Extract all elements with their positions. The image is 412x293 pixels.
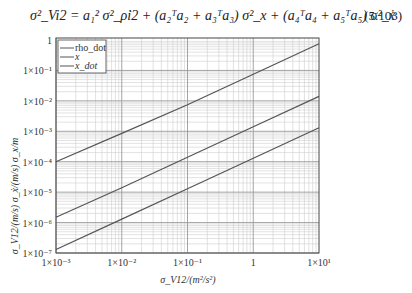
y-tick-label: 1×10⁻⁵ bbox=[23, 187, 52, 198]
y-tick-label: 1×10⁻¹ bbox=[23, 65, 52, 76]
y-tick-label: 1×10⁻⁴ bbox=[23, 157, 53, 168]
y-tick-label: 1×10⁻⁶ bbox=[23, 218, 53, 229]
x-axis-label: σ_V12/(m²/s²) bbox=[160, 274, 216, 286]
y-tick-label: 1 bbox=[47, 35, 52, 46]
y-tick-label: 1×10⁻² bbox=[23, 96, 52, 107]
y-tick-labels: 11×10⁻¹1×10⁻²1×10⁻³1×10⁻⁴1×10⁻⁵1×10⁻⁶1×1… bbox=[23, 35, 53, 259]
x-tick-label: 1×10¹ bbox=[307, 257, 331, 268]
legend-label-x-dot: x_dot bbox=[74, 60, 97, 71]
legend: rho_dot x x_dot bbox=[58, 40, 106, 73]
log-log-chart: 11×10⁻¹1×10⁻²1×10⁻³1×10⁻⁴1×10⁻⁵1×10⁻⁶1×1… bbox=[0, 0, 412, 293]
x-tick-label: 1 bbox=[251, 257, 256, 268]
x-tick-labels: 1×10⁻³1×10⁻²1×10⁻¹11×10¹ bbox=[42, 257, 331, 268]
x-tick-label: 1×10⁻¹ bbox=[173, 257, 202, 268]
x-tick-label: 1×10⁻² bbox=[107, 257, 136, 268]
legend-label-rho-dot: rho_dot bbox=[75, 42, 106, 53]
y-tick-label: 1×10⁻³ bbox=[23, 126, 52, 137]
y-axis-label: σ_V12/(m/s) σ_ẋ/(m/s) σ_x/m bbox=[9, 138, 21, 254]
x-tick-label: 1×10⁻³ bbox=[42, 257, 71, 268]
